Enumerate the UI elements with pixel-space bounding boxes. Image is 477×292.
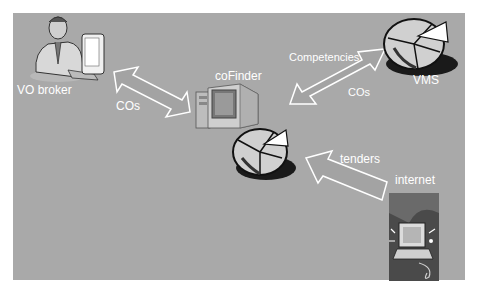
internet-clipart-icon: [389, 193, 439, 281]
diagram-graphics: [0, 0, 477, 292]
person-at-computer-icon: [30, 17, 104, 82]
edge-label-tenders: tenders: [340, 153, 380, 165]
node-label-cofinder: coFinder: [215, 70, 262, 82]
desktop-computer-icon: [196, 84, 258, 128]
edge-label-cos-right: COs: [348, 87, 370, 98]
node-label-vo-broker: VO broker: [17, 84, 72, 96]
edge-label-competencies: Competencies: [289, 52, 359, 63]
node-label-internet: internet: [395, 174, 435, 186]
node-label-vms: VMS: [413, 74, 439, 86]
edge-label-cos-left: COs: [116, 100, 140, 112]
pie-chart-icon: [233, 129, 296, 180]
pie-chart-icon: [384, 19, 458, 76]
